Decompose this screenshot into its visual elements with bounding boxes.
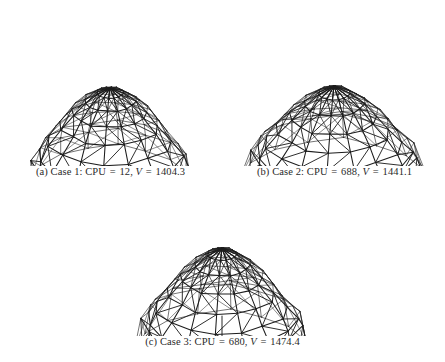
panel-caption: (b) Case 2: CPU = 688, V = 1441.1 [228, 166, 441, 177]
caption-eq-1: = [215, 336, 228, 347]
caption-volume-value: 1404.3 [156, 166, 185, 177]
dome-wireframe-c [116, 196, 329, 336]
caption-label: (b) [257, 166, 270, 177]
panel-caption: (a) Case 1: CPU = 12, V = 1404.3 [4, 166, 217, 177]
caption-eq-2: = [257, 336, 270, 347]
caption-label: (c) [145, 336, 157, 347]
caption-label: (a) [36, 166, 48, 177]
figure-panel-a [4, 26, 217, 166]
caption-case-name: Case 2 [272, 166, 301, 177]
figure-panel-c [116, 196, 329, 336]
caption-cpu-label: CPU [307, 166, 328, 177]
caption-eq-2: = [142, 166, 155, 177]
caption-cpu-value: 680 [229, 336, 245, 347]
caption-eq-1: = [106, 166, 119, 177]
panel-caption: (c) Case 3: CPU = 680, V = 1474.4 [116, 336, 329, 347]
caption-case-name: Case 3 [160, 336, 189, 347]
dome-wireframe-a [4, 26, 217, 166]
caption-volume-value: 1474.4 [270, 336, 299, 347]
caption-eq-2: = [369, 166, 382, 177]
dome-wireframe-b [228, 26, 441, 166]
caption-cpu-value: 688 [341, 166, 357, 177]
caption-volume-label: V [250, 336, 257, 347]
caption-cpu-value: 12 [119, 166, 130, 177]
caption-cpu-label: CPU [85, 166, 106, 177]
figure-panel-b [228, 26, 441, 166]
caption-cpu-label: CPU [195, 336, 216, 347]
caption-eq-1: = [328, 166, 341, 177]
caption-case-name: Case 1 [51, 166, 80, 177]
caption-volume-value: 1441.1 [383, 166, 412, 177]
